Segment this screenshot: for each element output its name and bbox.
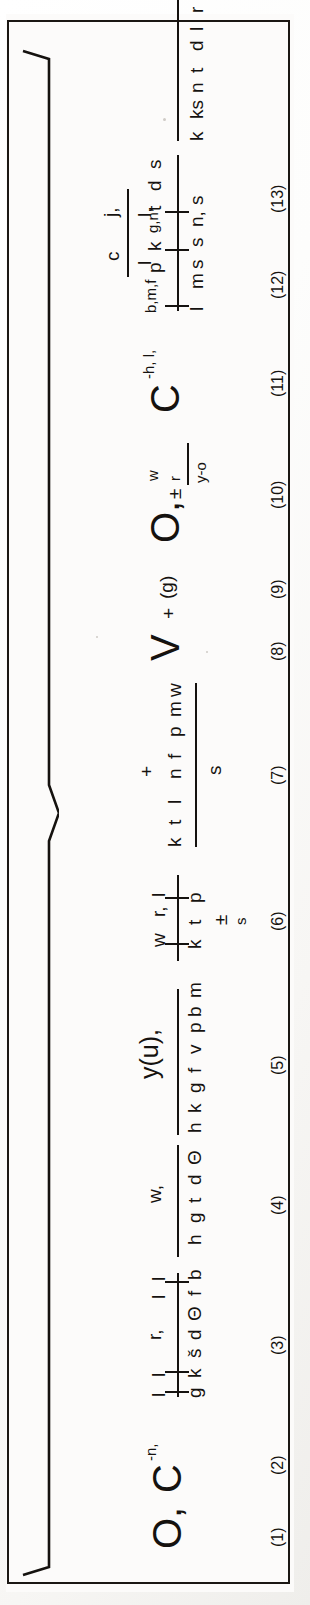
column-14: k ks n t d l r f p m +pf (14) [19,0,291,143]
col-5-below-3: f [185,1067,204,1072]
col-4-below-4: Θ [185,1150,204,1165]
col-10-plus-minus: ± [165,488,184,498]
col-5-below-0: h [185,1122,204,1133]
col-13-upper-1: j, [101,207,120,217]
column-4: h g t d Θ w, (4) [19,1143,291,1259]
col-14-below-3: t [187,67,206,72]
col-14-below-2: n [187,82,206,93]
col-10-num-top: w [145,470,160,481]
col-5-above-0: y(u), [137,1029,162,1079]
col-14-below-5: l [187,26,206,30]
column-10: O, ± w r y-o (10) [19,427,291,545]
col-6-plus-minus: ± [211,914,230,924]
column-1-2: O, C -n, (1) (2) [19,1409,291,1559]
col-4-rule [177,1145,179,1257]
col-6-above-2: l [149,892,168,896]
position-label-10: (10) [269,480,287,508]
col-12-below-1: m [187,273,206,289]
col-7-rule [195,683,197,847]
column-12-13: b,m,f p k g,n t d s l m s s n, s c j, l … [19,153,291,313]
col-6-above-0: w [149,933,168,947]
col-12-below-3: s [187,237,206,247]
col-12-below-2: s [187,259,206,269]
col-5-below-6: b [185,1006,204,1017]
col-10-num-mid: r [167,476,182,481]
position-label-12: (12) [269,270,287,298]
col-13-mid-1: l, [135,207,154,217]
col-13-upper-0: c [103,251,122,261]
col-5-below-5: p [185,1022,204,1033]
col-8-9-plus: + [159,607,178,618]
col-7-above-1: t [165,819,184,824]
col-7-above-4: f [165,753,184,758]
col-12-above-2: k [145,241,164,251]
col-12-below-0: l [187,306,206,310]
col-12-below-4: n, [187,211,206,227]
col-5-rule [177,989,179,1135]
position-label-4: (4) [269,1195,287,1215]
col-6-below-1: t [185,919,204,924]
col-6-rule [177,875,179,961]
col-3-below-4: Θ [185,1306,204,1321]
col-7-above-2: l [165,799,184,803]
column-11: C -h, l, (11) [19,317,291,421]
col-14-below-4: d [187,40,206,51]
col-6-below-2: p [185,892,204,903]
col-5-below-7: m [185,982,204,998]
col-3-above-3: l [149,1276,168,1280]
col-7-above-3: n [165,768,184,779]
col-3-middle: r, [145,1329,164,1340]
position-label-13: (13) [269,184,287,212]
col-3-rule [177,1273,179,1397]
col-4-below-1: g [185,1212,204,1223]
col-12-above-6: s [145,159,164,169]
col-12-above-0: b,m,f [143,279,158,312]
col-11-superscript: -h, l, [141,349,156,378]
col-4-below-0: h [185,1234,204,1245]
col-5-below-2: g [185,1082,204,1093]
figure-border-bottom [7,1582,290,1584]
col-1-2-main: O, [147,1506,187,1548]
col-14-rule [177,0,179,141]
col-14-below-6: r [187,6,206,12]
col-3-below-0: g [185,1387,204,1398]
col-12-above-5: d [145,180,164,191]
col-4-below-3: d [185,1174,204,1185]
col-3-above-0: l [149,1392,168,1396]
col-12-rule [177,155,179,311]
col-1-2-secondary: C [147,1464,187,1493]
col-12-tick [165,249,189,251]
col-7-above-0: k [165,837,184,847]
figure-content-plane: O, C -n, (1) (2) g k š d Θ f b l l l [19,25,291,1581]
col-13-mid-0: l [135,260,154,264]
col-14-below-1: ks [187,100,206,119]
col-7-above-7: w [165,683,184,697]
col-3-below-6: b [185,1269,204,1280]
col-12-below-5: s [187,195,206,205]
col-10-main: O, [145,500,185,542]
col-4-above-0: w, [145,1185,164,1203]
position-label-2: (2) [269,1455,287,1475]
position-label-7: (7) [269,765,287,785]
position-label-9: (9) [269,579,287,599]
col-4-below-2: t [185,1197,204,1202]
col-6-plus-minus-text: s [233,917,248,925]
col-3-below-5: f [185,1290,204,1295]
col-3-below-3: d [185,1329,204,1340]
col-8-9-main: V [145,634,185,661]
column-3: g k š d Θ f b l l l l r, (3) [19,1269,291,1401]
position-label-8: (8) [269,641,287,661]
col-13-rule [127,189,129,277]
position-label-6: (6) [269,911,287,931]
col-10-den: y-o [193,462,208,483]
col-3-below-2: š [185,1348,204,1358]
column-8-9: V + (g) (8) (9) [19,551,291,671]
column-5: h k g f v p b m y(u), (5) [19,987,291,1137]
col-5-below-4: v [185,1044,204,1054]
position-label-3: (3) [269,1335,287,1355]
col-7-above-5: p [165,726,184,737]
col-3-below-1: k [185,1368,204,1378]
col-7-plus: + [137,765,156,776]
col-5-below-1: k [185,1103,204,1113]
col-3-above-1: l [149,1372,168,1376]
